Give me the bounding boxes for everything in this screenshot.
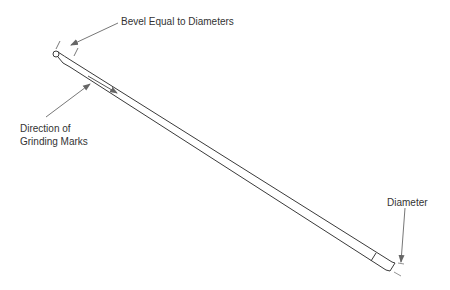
direction-label-line2: Grinding Marks [20, 135, 88, 148]
diameter-dimension-marks [394, 263, 404, 276]
rod-end [386, 262, 395, 271]
diameter-leader-arrow [401, 208, 405, 262]
grinding-direction-arrow [88, 76, 117, 93]
direction-leader-arrow [46, 84, 90, 117]
bevel-leader-arrow [71, 23, 118, 45]
electrode-rod [53, 51, 395, 271]
bevel-label: Bevel Equal to Diameters [121, 15, 234, 28]
direction-label-line1: Direction of [20, 122, 71, 135]
diameter-label: Diameter [387, 196, 428, 209]
